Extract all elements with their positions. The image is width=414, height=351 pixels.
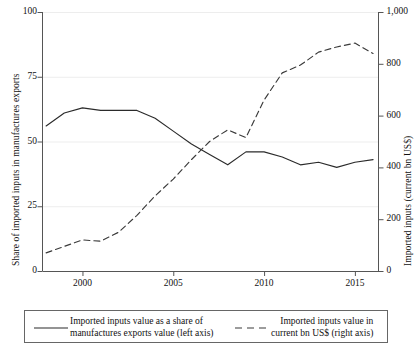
chart-figure: Share of imported inputs in manufactures… <box>0 0 414 351</box>
y-tick-label-right: 0 <box>387 265 414 275</box>
x-tick-label: 2005 <box>153 278 193 288</box>
x-tick-label: 2000 <box>62 278 102 288</box>
plot-area <box>0 0 414 351</box>
y-tick-label-right: 200 <box>387 213 414 223</box>
series-line-share <box>46 108 373 168</box>
chart-legend: Imported inputs value as a share of manu… <box>24 310 388 343</box>
solid-line-key <box>32 322 70 334</box>
y-axis-left-title: Share of imported inputs in manufactures… <box>11 73 21 266</box>
data-series-group <box>46 43 373 253</box>
legend-label-share: Imported inputs value as a share of manu… <box>70 316 214 339</box>
x-tick-label: 2015 <box>335 278 375 288</box>
y-tick-label-left: 0 <box>4 265 37 275</box>
series-line-value <box>46 43 373 253</box>
y-tick-label-left: 25 <box>4 200 37 210</box>
y-axis-right-title: Imported inputs (current bn US$) <box>403 136 413 266</box>
dashed-line-key <box>233 322 271 334</box>
y-tick-label-right: 400 <box>387 161 414 171</box>
y-tick-label-right: 1,000 <box>387 6 414 16</box>
y-tick-label-left: 100 <box>4 6 37 16</box>
legend-item-share: Imported inputs value as a share of manu… <box>32 314 228 341</box>
y-tick-label-left: 50 <box>4 136 37 146</box>
tick-marks <box>38 13 384 277</box>
y-tick-label-right: 800 <box>387 58 414 68</box>
legend-item-value: Imported inputs value in current bn US$ … <box>233 314 385 341</box>
y-tick-label-left: 75 <box>4 71 37 81</box>
legend-label-value: Imported inputs value in current bn US$ … <box>271 316 373 339</box>
y-tick-label-right: 600 <box>387 110 414 120</box>
x-tick-label: 2010 <box>244 278 284 288</box>
